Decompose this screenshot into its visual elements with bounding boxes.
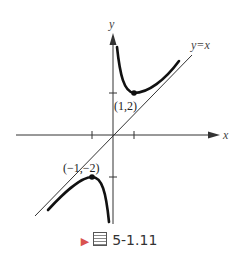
- x-axis-arrow-icon: [208, 132, 220, 139]
- x-axis-label: x: [222, 128, 229, 142]
- upper-curve-branch: [117, 47, 179, 93]
- function-graph: y x y=x (1,2) (−1,−2): [0, 0, 238, 259]
- point-max-label: (−1,−2): [63, 161, 100, 175]
- figure-caption: ▶5-1.11: [0, 232, 238, 248]
- point-min-label: (1,2): [114, 99, 137, 113]
- point-min: [131, 90, 137, 96]
- y-axis-arrow-icon: [110, 33, 117, 45]
- y-axis-label: y: [108, 17, 115, 31]
- caption-arrow-icon: ▶: [81, 235, 89, 248]
- caption-text: 5-1.11: [112, 232, 157, 248]
- point-max: [89, 174, 95, 180]
- figure-glyph-icon: [93, 232, 107, 246]
- asymptote-label: y=x: [190, 38, 210, 52]
- lower-curve-branch: [48, 177, 109, 222]
